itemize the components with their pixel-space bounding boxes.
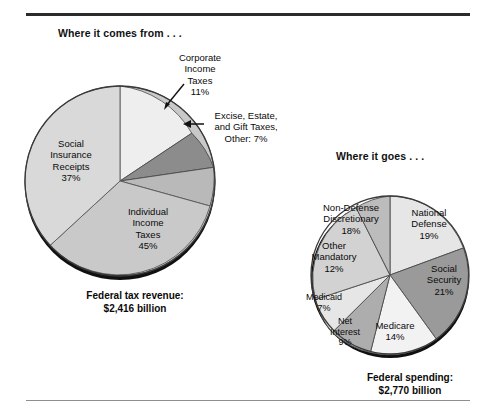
revenue-leader-excise-icon [183, 118, 205, 130]
revenue-callout-excise-estate-gift-other: Excise, Estate, and Gift Taxes, Other: 7… [198, 110, 294, 144]
spending-pie-svg [300, 185, 480, 365]
revenue-pie-svg [14, 75, 226, 287]
revenue-panel-title: Where it comes from . . . [58, 27, 182, 39]
revenue-pie-chart [14, 75, 226, 287]
top-divider-rule [26, 13, 470, 16]
revenue-caption: Federal tax revenue: $2,416 billion [40, 290, 230, 315]
callout-line-2: and Gift Taxes, [198, 121, 294, 132]
caption-line-2: $2,770 billion [330, 385, 490, 398]
revenue-leader-corporate-icon [160, 80, 190, 112]
spending-pie-chart [300, 185, 480, 365]
caption-line-1: Federal spending: [330, 372, 490, 385]
spending-panel-title: Where it goes . . . [336, 150, 424, 162]
callout-line-1: Excise, Estate, [198, 110, 294, 121]
callout-line-2: Income [163, 63, 237, 74]
bottom-divider-rule [26, 400, 470, 401]
caption-line-1: Federal tax revenue: [40, 290, 230, 303]
figure-canvas: Where it comes from . . . [0, 0, 496, 414]
callout-line-3: Other: 7% [198, 133, 294, 144]
spending-caption: Federal spending: $2,770 billion [330, 372, 490, 397]
caption-line-2: $2,416 billion [40, 303, 230, 316]
callout-line-1: Corporate [163, 52, 237, 63]
